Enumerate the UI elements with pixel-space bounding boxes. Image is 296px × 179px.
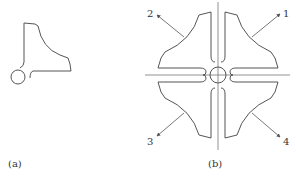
leader-arrow-4 — [252, 113, 280, 137]
caption-b: (b) — [208, 159, 222, 169]
leader-arrow-1 — [252, 14, 280, 37]
subfigure-b — [145, 2, 290, 150]
callout-label-3: 3 — [147, 137, 153, 147]
quadrant-piece-top-left — [158, 12, 215, 75]
quadrant-piece-bottom-right — [221, 75, 278, 138]
leader-arrow-2 — [157, 15, 184, 37]
quadrant-piece-a — [20, 23, 71, 78]
leader-arrow-3 — [157, 113, 184, 136]
small-circle-a — [11, 70, 25, 84]
diagram-canvas — [0, 0, 296, 179]
caption-a: (a) — [8, 159, 22, 169]
callout-label-2: 2 — [147, 9, 153, 19]
quadrant-piece-top-right — [221, 12, 278, 75]
callout-label-4: 4 — [283, 137, 289, 147]
callout-label-1: 1 — [283, 9, 289, 19]
subfigure-a — [11, 23, 71, 84]
quadrant-piece-bottom-left — [158, 75, 215, 138]
